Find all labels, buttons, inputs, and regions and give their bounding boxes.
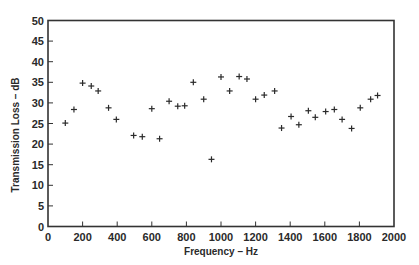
plus-marker-icon xyxy=(261,92,267,98)
data-markers xyxy=(62,74,380,163)
x-axis-ticks: 0200400600800100012001400160018002000 xyxy=(45,222,406,243)
plus-marker-icon xyxy=(279,125,285,131)
plus-marker-icon xyxy=(305,108,311,114)
plus-marker-icon xyxy=(157,136,163,142)
plot-border xyxy=(48,21,394,227)
x-tick-label: 1200 xyxy=(243,231,267,243)
plus-marker-icon xyxy=(323,109,329,115)
plus-marker-icon xyxy=(166,98,172,104)
plus-marker-icon xyxy=(62,120,68,126)
plus-marker-icon xyxy=(182,103,188,109)
y-tick-label: 45 xyxy=(32,35,44,47)
y-axis-ticks: 05101520253035404550 xyxy=(32,15,53,233)
plus-marker-icon xyxy=(236,74,242,80)
x-tick-label: 200 xyxy=(73,231,91,243)
plus-marker-icon xyxy=(339,116,345,122)
plus-marker-icon xyxy=(331,106,337,112)
y-tick-label: 0 xyxy=(38,221,44,233)
plus-marker-icon xyxy=(131,132,137,138)
y-tick-label: 25 xyxy=(32,118,44,130)
plus-marker-icon xyxy=(149,106,155,112)
plot-frame xyxy=(48,21,394,227)
x-tick-label: 800 xyxy=(177,231,195,243)
x-tick-label: 400 xyxy=(108,231,126,243)
plus-marker-icon xyxy=(357,105,363,111)
plus-marker-icon xyxy=(312,114,318,120)
plus-marker-icon xyxy=(106,105,112,111)
y-tick-label: 5 xyxy=(38,200,44,212)
x-tick-label: 2000 xyxy=(382,231,406,243)
plus-marker-icon xyxy=(244,76,250,82)
plus-marker-icon xyxy=(139,134,145,140)
x-tick-label: 1400 xyxy=(278,231,302,243)
plus-marker-icon xyxy=(95,88,101,94)
y-tick-label: 50 xyxy=(32,15,44,27)
x-tick-label: 0 xyxy=(45,231,51,243)
x-tick-label: 1600 xyxy=(313,231,337,243)
x-tick-label: 1000 xyxy=(209,231,233,243)
plus-marker-icon xyxy=(227,88,233,94)
y-tick-label: 15 xyxy=(32,159,44,171)
plus-marker-icon xyxy=(71,106,77,112)
plus-marker-icon xyxy=(218,74,224,80)
y-tick-label: 20 xyxy=(32,138,44,150)
x-axis-title: Frequency – Hz xyxy=(184,246,258,257)
plus-marker-icon xyxy=(296,122,302,128)
plus-marker-icon xyxy=(368,96,374,102)
plus-marker-icon xyxy=(88,83,94,89)
x-tick-label: 1800 xyxy=(347,231,371,243)
plus-marker-icon xyxy=(190,79,196,85)
y-tick-label: 10 xyxy=(32,179,44,191)
plus-marker-icon xyxy=(80,80,86,86)
plus-marker-icon xyxy=(253,96,259,102)
plus-marker-icon xyxy=(175,103,181,109)
plus-marker-icon xyxy=(288,113,294,119)
y-axis-title: Transmission Loss – dB xyxy=(10,77,21,192)
plus-marker-icon xyxy=(272,88,278,94)
plus-marker-icon xyxy=(113,116,119,122)
y-tick-label: 40 xyxy=(32,56,44,68)
plus-marker-icon xyxy=(201,96,207,102)
x-tick-label: 600 xyxy=(143,231,161,243)
y-tick-label: 35 xyxy=(32,76,44,88)
plus-marker-icon xyxy=(208,156,214,162)
y-tick-label: 30 xyxy=(32,97,44,109)
plus-marker-icon xyxy=(349,125,355,131)
transmission-loss-chart: 05101520253035404550 0200400600800100012… xyxy=(0,0,419,265)
plus-marker-icon xyxy=(375,92,381,98)
